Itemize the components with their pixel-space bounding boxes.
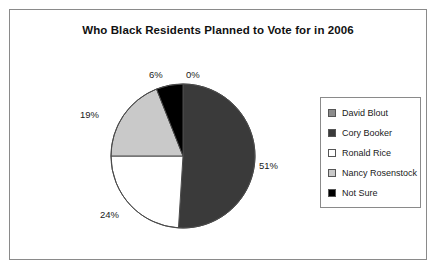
pie-label-david-blout: 0% [186, 70, 200, 80]
legend-label: Ronald Rice [342, 149, 391, 158]
legend-item-ronald-rice: Ronald Rice [321, 143, 420, 163]
pie-label-ronald-rice: 24% [100, 210, 119, 220]
legend-label: Cory Booker [342, 129, 392, 138]
pie-svg [103, 76, 263, 236]
pie-slices [111, 84, 255, 228]
legend-swatch-icon [328, 109, 336, 117]
pie-slice-cory-booker [178, 84, 254, 228]
legend-item-not-sure: Not Sure [321, 183, 420, 203]
legend-swatch-icon [328, 169, 336, 177]
pie-label-nancy-rosenstock: 19% [80, 110, 99, 120]
legend-swatch-icon [328, 189, 336, 197]
pie-label-cory-booker: 51% [259, 161, 278, 171]
chart-screenshot: Who Black Residents Planned to Vote for … [0, 0, 438, 275]
pie-chart [103, 76, 263, 236]
pie-label-not-sure: 6% [149, 70, 163, 80]
legend-item-nancy-rosenstock: Nancy Rosenstock [321, 163, 420, 183]
chart-legend: David Blout Cory Booker Ronald Rice Nanc… [320, 97, 421, 208]
legend-swatch-icon [328, 129, 336, 137]
legend-swatch-icon [328, 149, 336, 157]
legend-label: Not Sure [342, 189, 378, 198]
chart-frame: Who Black Residents Planned to Vote for … [9, 9, 427, 260]
legend-item-cory-booker: Cory Booker [321, 123, 420, 143]
legend-label: Nancy Rosenstock [342, 169, 417, 178]
legend-item-david-blout: David Blout [321, 103, 420, 123]
chart-title: Who Black Residents Planned to Vote for … [10, 24, 426, 36]
legend-label: David Blout [342, 109, 388, 118]
pie-slice-ronald-rice [111, 156, 183, 228]
